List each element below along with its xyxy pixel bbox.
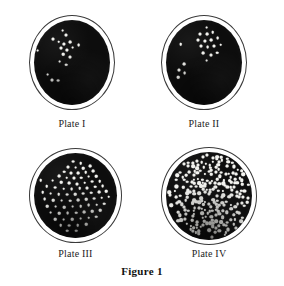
colony bbox=[229, 186, 232, 189]
colony bbox=[241, 216, 243, 218]
colony bbox=[207, 229, 211, 233]
colony bbox=[211, 209, 214, 212]
plate-agar-3 bbox=[34, 153, 117, 238]
colony bbox=[105, 190, 108, 193]
colony bbox=[211, 161, 213, 163]
colony bbox=[58, 60, 61, 63]
colony bbox=[87, 216, 90, 219]
colony bbox=[217, 190, 219, 192]
colony bbox=[49, 211, 52, 214]
plate-label-4: Plate IV bbox=[161, 248, 257, 260]
colony bbox=[179, 171, 182, 174]
colony bbox=[188, 170, 191, 173]
plate-label-2: Plate II bbox=[161, 118, 247, 130]
colony bbox=[240, 169, 244, 173]
colony bbox=[65, 176, 68, 179]
colony bbox=[210, 235, 213, 238]
colony bbox=[57, 193, 60, 196]
colony bbox=[61, 29, 64, 32]
colony bbox=[91, 210, 94, 213]
colony bbox=[202, 52, 205, 55]
colony bbox=[91, 180, 94, 183]
colony bbox=[98, 180, 101, 183]
colony bbox=[65, 63, 68, 66]
colony bbox=[68, 224, 71, 227]
colony bbox=[54, 218, 57, 221]
colony bbox=[227, 195, 231, 199]
colony bbox=[216, 163, 220, 167]
colony bbox=[209, 188, 212, 191]
colony bbox=[242, 173, 246, 177]
colony bbox=[208, 182, 211, 185]
colony bbox=[210, 215, 213, 218]
colony bbox=[183, 178, 186, 181]
colony bbox=[226, 186, 229, 189]
colony bbox=[202, 155, 205, 158]
colony bbox=[182, 186, 184, 188]
colony bbox=[90, 191, 93, 194]
colony bbox=[204, 209, 206, 211]
colony bbox=[218, 229, 221, 232]
colony bbox=[204, 215, 207, 218]
colony bbox=[199, 169, 202, 172]
colony bbox=[220, 171, 223, 174]
colony bbox=[62, 218, 65, 221]
colony bbox=[243, 204, 246, 207]
colony bbox=[218, 204, 221, 207]
colony bbox=[186, 196, 189, 199]
colony bbox=[221, 209, 224, 212]
colony bbox=[77, 172, 80, 175]
colony bbox=[85, 223, 88, 226]
colony bbox=[198, 206, 201, 209]
colony bbox=[203, 39, 206, 42]
colony bbox=[58, 212, 61, 215]
colony bbox=[179, 194, 182, 197]
colony bbox=[228, 179, 232, 183]
colony bbox=[197, 178, 199, 180]
colony bbox=[63, 206, 66, 209]
colony bbox=[213, 45, 216, 48]
colony bbox=[200, 208, 202, 210]
plate-agar-1 bbox=[34, 20, 110, 105]
colony bbox=[225, 200, 228, 203]
colony bbox=[223, 203, 226, 206]
colony bbox=[234, 226, 237, 229]
colony bbox=[202, 203, 204, 205]
colony bbox=[62, 53, 65, 56]
colony bbox=[57, 79, 60, 82]
colony bbox=[222, 190, 224, 192]
colony bbox=[247, 184, 249, 186]
colony bbox=[216, 199, 219, 202]
colony bbox=[68, 182, 71, 185]
colony bbox=[36, 49, 39, 52]
colony bbox=[77, 44, 80, 47]
colony bbox=[71, 218, 74, 221]
colony bbox=[184, 199, 187, 202]
plate-agar-4 bbox=[166, 152, 252, 240]
colony bbox=[204, 190, 207, 193]
colony bbox=[63, 170, 66, 173]
colony bbox=[86, 186, 89, 189]
colony bbox=[246, 197, 249, 200]
colony bbox=[52, 37, 55, 40]
colony bbox=[222, 194, 225, 197]
colony bbox=[70, 171, 73, 174]
colony bbox=[225, 211, 228, 214]
colony bbox=[65, 34, 68, 37]
colony bbox=[66, 212, 69, 215]
colony bbox=[73, 177, 76, 180]
plate-label-1: Plate I bbox=[29, 118, 115, 130]
colony-layer-3 bbox=[34, 153, 117, 238]
colony bbox=[214, 182, 217, 185]
colony bbox=[233, 186, 236, 189]
colony bbox=[203, 185, 206, 188]
colony bbox=[218, 182, 221, 185]
colony bbox=[99, 209, 102, 212]
colony bbox=[190, 185, 193, 188]
colony bbox=[211, 180, 213, 182]
petri-plate-2 bbox=[161, 15, 247, 110]
colony bbox=[211, 31, 214, 34]
colony bbox=[209, 53, 212, 56]
colony bbox=[221, 215, 225, 219]
colony bbox=[183, 209, 186, 212]
